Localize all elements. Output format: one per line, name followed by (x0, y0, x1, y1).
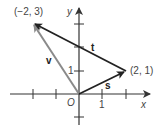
vector-label-t: t (91, 42, 95, 53)
y-axis-label: y (66, 6, 73, 17)
vector-diagram: (−2, 3) (2, 1) y x O 1 1 v s t (0, 0, 155, 129)
y-tick-label-1: 1 (68, 65, 74, 76)
point-label-2-1: (2, 1) (130, 65, 153, 76)
x-axis-label: x (140, 99, 147, 110)
vector-label-s: s (105, 80, 111, 91)
x-tick-label-1: 1 (99, 99, 105, 110)
vector-label-v: v (46, 55, 52, 66)
y-axis (74, 8, 84, 125)
point-label-neg2-3: (−2, 3) (14, 6, 43, 17)
origin-label: O (67, 97, 75, 108)
